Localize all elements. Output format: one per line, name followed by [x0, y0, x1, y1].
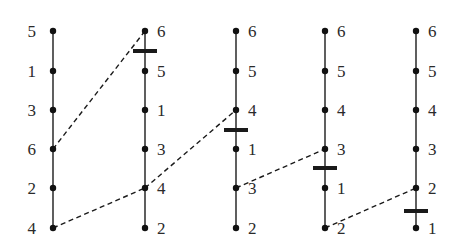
column-4: 654312	[313, 22, 346, 238]
node-label: 4	[157, 179, 166, 198]
node	[233, 107, 239, 113]
node	[142, 107, 148, 113]
node	[50, 185, 56, 191]
node	[322, 68, 328, 74]
node-label: 5	[428, 62, 437, 81]
node-label: 4	[28, 219, 37, 238]
node-label: 1	[428, 219, 437, 238]
stack-diagram: 513624651342654132654312654321	[0, 0, 461, 246]
node-label: 1	[248, 140, 257, 159]
node-label: 2	[248, 219, 257, 238]
column-1: 513624	[28, 22, 57, 238]
node-label: 4	[428, 101, 437, 120]
node-label: 1	[157, 101, 166, 120]
cut-bar	[404, 209, 428, 213]
node-label: 1	[28, 62, 37, 81]
node	[413, 146, 419, 152]
node	[413, 225, 419, 231]
node-label: 4	[337, 101, 346, 120]
node-label: 6	[28, 140, 37, 159]
node-label: 2	[157, 219, 166, 238]
node-label: 1	[337, 179, 346, 198]
node-label: 5	[28, 22, 37, 41]
node-label: 2	[337, 219, 346, 238]
node	[50, 68, 56, 74]
node-label: 3	[428, 140, 437, 159]
node	[233, 68, 239, 74]
node	[413, 185, 419, 191]
node	[413, 68, 419, 74]
node	[233, 146, 239, 152]
node-label: 6	[157, 22, 166, 41]
node	[142, 68, 148, 74]
column-2: 651342	[133, 22, 166, 238]
node	[142, 225, 148, 231]
node-label: 2	[428, 179, 437, 198]
node-label: 5	[337, 62, 346, 81]
dashed-link	[53, 31, 145, 149]
node-label: 5	[157, 62, 166, 81]
node	[50, 28, 56, 34]
node-label: 6	[248, 22, 257, 41]
node	[142, 185, 148, 191]
node	[322, 225, 328, 231]
column-5: 654321	[404, 22, 437, 238]
node	[233, 225, 239, 231]
node	[233, 28, 239, 34]
node-label: 3	[248, 179, 257, 198]
cut-bar	[313, 166, 337, 170]
node-label: 3	[28, 101, 37, 120]
node-label: 6	[337, 22, 346, 41]
node-label: 3	[337, 140, 346, 159]
cut-bar	[224, 128, 248, 132]
node	[142, 28, 148, 34]
node	[322, 28, 328, 34]
dashed-link	[53, 188, 145, 228]
node	[322, 185, 328, 191]
node-label: 2	[28, 179, 37, 198]
node	[413, 107, 419, 113]
node-label: 3	[157, 140, 166, 159]
node	[413, 28, 419, 34]
node	[50, 225, 56, 231]
node	[322, 107, 328, 113]
node-label: 5	[248, 62, 257, 81]
cut-bar	[133, 49, 157, 53]
node	[50, 146, 56, 152]
node	[233, 185, 239, 191]
node	[50, 107, 56, 113]
node-label: 6	[428, 22, 437, 41]
node	[142, 146, 148, 152]
node	[322, 146, 328, 152]
column-3: 654132	[224, 22, 257, 238]
node-label: 4	[248, 101, 257, 120]
